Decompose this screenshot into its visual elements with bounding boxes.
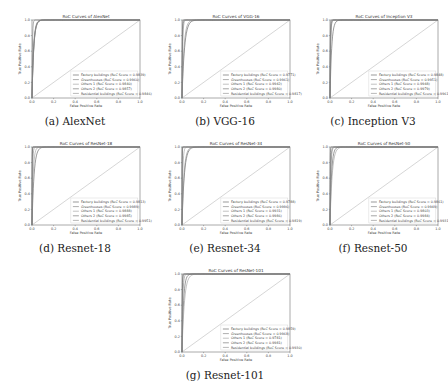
y-tick-label: 0.4 [323,65,328,69]
x-tick-label: 1.0 [435,227,440,231]
subfigure-caption: (e) Resnet-34 [150,242,300,254]
x-tick-label: 0.8 [116,100,121,104]
legend-entry: Others 2 (RoC Score = 0.9984) [379,214,430,218]
x-tick-label: 1.0 [287,354,292,358]
legend-entry: Greenhouses (RoC Score = 0.9989) [81,205,139,209]
x-tick-label: 1.0 [287,100,292,104]
x-tick-label: 0.8 [266,227,271,231]
y-tick-label: 1.0 [323,18,328,22]
legend-entry: Residential buildings (RoC Score = 0.996… [379,92,448,96]
x-axis-label: False Positive Rate [368,104,401,108]
legend-entry: Residential buildings (RoC Score = 0.995… [81,219,152,223]
y-tick-label: 1.0 [25,18,30,22]
y-tick-label: 0.8 [175,161,180,165]
x-tick-label: 0.0 [29,100,34,104]
y-axis-label: True Positive Rate [18,170,22,202]
y-tick-label: 0.4 [175,192,180,196]
y-tick-label: 0.0 [25,96,30,100]
y-tick-label: 0.4 [25,65,30,69]
y-tick-label: 0.6 [25,49,30,53]
panel-vgg16: RoC Curves of VGG-160.00.20.40.60.81.00.… [150,10,300,138]
x-tick-label: 0.2 [201,354,206,358]
y-axis-label: True Positive Rate [168,43,172,75]
roc-chart: RoC Curves of Inception V30.00.20.40.60.… [298,10,448,114]
y-tick-label: 0.8 [25,161,30,165]
y-tick-label: 0.0 [175,350,180,354]
x-tick-label: 1.0 [137,100,142,104]
y-axis-label: True Positive Rate [168,170,172,202]
y-tick-label: 0.0 [175,96,180,100]
y-tick-label: 0.0 [25,223,30,227]
x-tick-label: 0.0 [29,227,34,231]
legend-entry: Factory buildings (RoC Score = 0.9788) [231,200,296,204]
x-tick-label: 0.6 [392,227,397,231]
chart-title: RoC Curves of AlexNet [62,14,109,19]
y-tick-label: 0.0 [175,223,180,227]
x-tick-label: 0.6 [244,100,249,104]
x-tick-label: 0.0 [179,227,184,231]
subfigure-caption: (f) Resnet-50 [298,242,448,254]
x-tick-label: 0.0 [179,100,184,104]
y-tick-label: 0.6 [323,176,328,180]
x-tick-label: 0.8 [414,227,419,231]
y-tick-label: 0.2 [175,81,180,85]
legend-entry: Others 1 (RoC Score = 0.9931) [231,209,282,213]
x-tick-label: 0.4 [72,100,77,104]
y-tick-label: 0.8 [323,34,328,38]
legend-entry: Others 1 (RoC Score = 0.9781) [231,336,282,340]
legend-entry: Others 2 (RoC Score = 0.9981) [231,341,282,345]
x-axis-label: False Positive Rate [70,104,103,108]
y-tick-label: 0.4 [175,65,180,69]
x-tick-label: 0.6 [244,354,249,358]
chart-title: RoC Curves of ResNet-34 [210,141,263,146]
legend-entry: Others 1 (RoC Score = 0.9942) [231,82,282,86]
x-tick-label: 0.4 [222,227,227,231]
y-tick-label: 1.0 [175,145,180,149]
legend-entry: Greenhouses (RoC Score = 0.9961) [231,78,289,82]
y-tick-label: 1.0 [175,18,180,22]
x-tick-label: 0.8 [414,100,419,104]
subfigure-caption: (c) Inception V3 [298,115,448,127]
x-tick-label: 0.4 [72,227,77,231]
panel-inception-v3: RoC Curves of Inception V30.00.20.40.60.… [298,10,448,138]
legend-entry: Factory buildings (RoC Score = 0.9839) [81,73,146,77]
x-tick-label: 0.2 [201,227,206,231]
legend-entry: Factory buildings (RoC Score = 0.9859) [231,327,296,331]
y-tick-label: 0.4 [25,192,30,196]
x-tick-label: 1.0 [287,227,292,231]
roc-chart: RoC Curves of ResNet-180.00.20.40.60.81.… [0,137,150,241]
legend-entry: Others 2 (RoC Score = 0.9979) [379,87,430,91]
x-tick-label: 0.6 [94,100,99,104]
roc-chart: RoC Curves of AlexNet0.00.20.40.60.81.00… [0,10,150,114]
legend-entry: Others 2 (RoC Score = 0.9985) [81,214,132,218]
chart-title: RoC Curves of ResNet-101 [208,268,263,273]
legend-entry: Others 1 (RoC Score = 0.9803) [379,209,430,213]
x-tick-label: 0.0 [327,100,332,104]
y-tick-label: 0.4 [323,192,328,196]
y-tick-label: 1.0 [175,272,180,276]
legend-entry: Greenhouses (RoC Score = 0.9960) [81,78,139,82]
y-tick-label: 0.2 [323,208,328,212]
legend-entry: Residential buildings (RoC Score = 0.984… [81,92,152,96]
panel-resnet18: RoC Curves of ResNet-180.00.20.40.60.81.… [0,137,150,265]
legend-entry: Factory buildings (RoC Score = 0.9771) [231,73,296,77]
x-tick-label: 0.4 [370,227,375,231]
x-axis-label: False Positive Rate [220,231,253,235]
y-tick-label: 1.0 [323,145,328,149]
legend-entry: Residential buildings (RoC Score = 0.981… [231,219,302,223]
x-tick-label: 0.2 [201,100,206,104]
chart-title: RoC Curves of Inception V3 [355,14,412,19]
legend-entry: Others 2 (RoC Score = 0.9986) [231,214,282,218]
legend-entry: Residential buildings (RoC Score = 0.981… [231,92,302,96]
y-axis-label: True Positive Rate [18,43,22,75]
y-axis-label: True Positive Rate [316,170,320,202]
y-tick-label: 1.0 [25,145,30,149]
y-tick-label: 0.8 [175,34,180,38]
legend-entry: Others 2 (RoC Score = 0.9980) [231,87,282,91]
legend-entry: Factory buildings (RoC Score = 0.9813) [81,200,146,204]
y-axis-label: True Positive Rate [168,297,172,329]
roc-chart: RoC Curves of ResNet-1010.00.20.40.60.81… [150,264,300,368]
chart-title: RoC Curves of VGG-16 [213,14,260,19]
y-tick-label: 0.2 [175,335,180,339]
x-tick-label: 0.6 [94,227,99,231]
